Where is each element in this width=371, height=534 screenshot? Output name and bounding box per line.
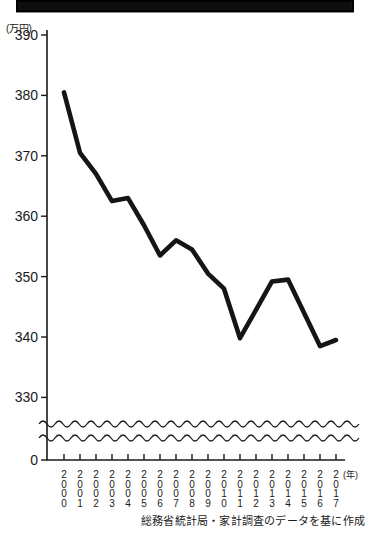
x-axis-ticks xyxy=(64,454,336,460)
data-series-line xyxy=(64,92,336,346)
svg-text:350: 350 xyxy=(15,269,39,285)
x-axis-label-2005: 2005 xyxy=(137,470,151,508)
x-axis-label-2017: 2017 xyxy=(329,470,343,508)
x-axis-label-2000: 2000 xyxy=(57,470,71,508)
x-axis-label-2002: 2002 xyxy=(89,470,103,508)
svg-text:330: 330 xyxy=(15,389,39,405)
svg-text:390: 390 xyxy=(15,27,39,43)
x-axis-label-2008: 2008 xyxy=(185,470,199,508)
x-axis-label-2015: 2015 xyxy=(297,470,311,508)
x-axis-label-2016: 2016 xyxy=(313,470,327,508)
x-axis-label-2004: 2004 xyxy=(121,470,135,508)
svg-text:0: 0 xyxy=(30,452,38,468)
x-axis-label-2007: 2007 xyxy=(169,470,183,508)
x-axis-label-2010: 2010 xyxy=(217,470,231,508)
x-axis-label-2001: 2001 xyxy=(73,470,87,508)
axis-break-squiggle xyxy=(39,421,359,441)
chart-axes xyxy=(41,30,345,460)
x-axis-label-2006: 2006 xyxy=(153,470,167,508)
svg-text:340: 340 xyxy=(15,329,39,345)
x-axis-label-2014: 2014 xyxy=(281,470,295,508)
svg-text:370: 370 xyxy=(15,148,39,164)
source-note: 総務省統計局・家計調査のデータを基に作成 xyxy=(0,512,365,528)
x-axis-label-2012: 2012 xyxy=(249,470,263,508)
x-axis-label-2009: 2009 xyxy=(201,470,215,508)
svg-text:360: 360 xyxy=(15,208,39,224)
svg-text:380: 380 xyxy=(15,87,39,103)
x-axis-label-2013: 2013 xyxy=(265,470,279,508)
y-axis-tick-labels: 3903803703603503403300 xyxy=(15,27,39,468)
x-axis-tick-labels: 2000200120022003200420052006200720082009… xyxy=(0,470,371,512)
x-axis-unit-label: (年) xyxy=(343,470,358,480)
chart-page: (万円) 3903803703603503403300 200020012002… xyxy=(0,0,371,534)
x-axis-label-2011: 2011 xyxy=(233,470,247,508)
line-chart: 3903803703603503403300 xyxy=(0,0,371,534)
x-axis-label-2003: 2003 xyxy=(105,470,119,508)
